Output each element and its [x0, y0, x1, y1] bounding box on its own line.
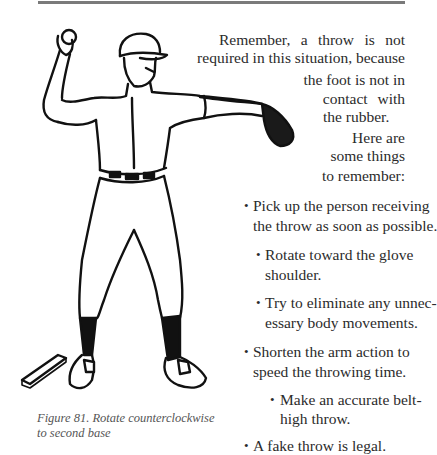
- word: is: [364, 31, 374, 49]
- bullet-line: speed the throwing time.: [253, 363, 406, 381]
- bullet-line: Try to eliminate any unnec-: [265, 294, 437, 312]
- bullet-glyph: •: [244, 197, 249, 215]
- word: not: [385, 31, 405, 49]
- intro-line: contact with: [323, 90, 405, 108]
- intro-line: the rubber.: [323, 108, 389, 126]
- word: Remember,: [219, 31, 290, 49]
- intro-line: some things: [331, 147, 406, 165]
- intro-line: to remember:: [322, 167, 405, 185]
- bullet-line: high throw.: [280, 410, 350, 428]
- intro-line: Remember,athrowisnot: [219, 31, 405, 49]
- figure-caption-line: to second base: [37, 426, 111, 441]
- bullet-glyph: •: [256, 246, 261, 264]
- word: a: [301, 31, 308, 49]
- bullet-glyph: •: [244, 343, 249, 361]
- figure-caption-line: Figure 81. Rotate counterclockwise: [37, 411, 215, 426]
- bullet-line: A fake throw is legal.: [253, 437, 386, 455]
- bullet-line: shoulder.: [265, 266, 321, 284]
- bullet-line: the throw as soon as possible.: [253, 217, 437, 235]
- bullet-line: essary body movements.: [265, 314, 418, 332]
- intro-line: the foot is not in: [303, 71, 405, 89]
- bullet-line: Make an accurate belt-: [280, 391, 405, 409]
- bullet-glyph: •: [270, 391, 275, 409]
- bullet-line: Rotate toward the glove: [265, 246, 405, 264]
- bullet-glyph: •: [256, 294, 261, 312]
- bullet-line: Shorten the arm action to: [253, 343, 405, 361]
- intro-line: Here are: [352, 129, 405, 147]
- word: throw: [318, 31, 354, 49]
- bullet-line: Pick up the person receiving: [253, 197, 405, 215]
- bullet-glyph: •: [244, 437, 249, 455]
- intro-line: required in this situation, because: [197, 49, 405, 67]
